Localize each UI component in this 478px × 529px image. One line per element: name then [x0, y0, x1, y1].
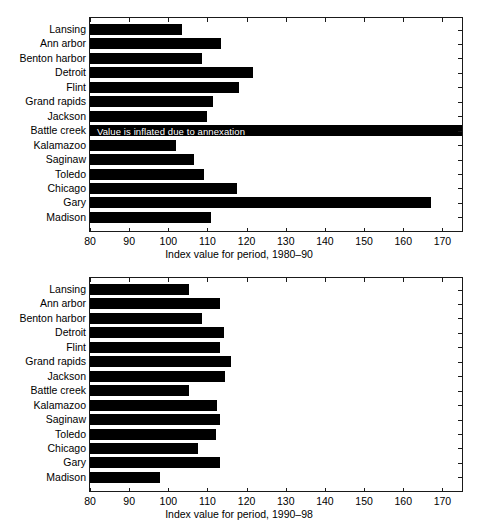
bar-grand-rapids [90, 356, 231, 367]
y-tick-mark-right [458, 333, 462, 334]
x-tick-mark-top [442, 278, 443, 282]
bar-jackson [90, 111, 207, 122]
x-tick-mark-top [207, 18, 208, 22]
bar-row [90, 140, 462, 151]
x-tick-mark [207, 228, 208, 232]
category-label-jackson: Jackson [47, 111, 86, 122]
category-label-flint: Flint [66, 82, 86, 93]
y-tick-mark-right [458, 203, 462, 204]
x-tick-mark-top [90, 278, 91, 282]
category-label-detroit: Detroit [55, 327, 86, 338]
plot-area-top: Value is inflated due to annexation [89, 17, 463, 232]
category-label-saginaw: Saginaw [46, 154, 86, 165]
bar-row [90, 443, 462, 454]
x-tick-mark-top [90, 18, 91, 22]
x-tick-label: 130 [277, 495, 295, 507]
y-tick-mark-right [458, 174, 462, 175]
bar-row [90, 169, 462, 180]
category-label-toledo: Toledo [55, 169, 86, 180]
x-tick-label: 110 [199, 235, 216, 247]
x-tick-mark [364, 228, 365, 232]
figure-bar-chart-pair: Value is inflated due to annexation Lans… [0, 0, 478, 529]
x-tick-label: 120 [238, 235, 256, 247]
y-tick-mark-right [458, 116, 462, 117]
bar-row [90, 183, 462, 194]
bar-ann-arbor [90, 298, 220, 309]
category-label-ann-arbor: Ann arbor [40, 298, 86, 309]
bar-row [90, 154, 462, 165]
bar-kalamazoo [90, 140, 176, 151]
x-tick-mark [247, 228, 248, 232]
y-tick-mark-right [458, 376, 462, 377]
bar-row [90, 371, 462, 382]
x-tick-label: 140 [316, 235, 334, 247]
x-tick-label: 90 [123, 235, 135, 247]
category-label-flint: Flint [66, 342, 86, 353]
bar-row [90, 356, 462, 367]
x-tick-mark-top [207, 278, 208, 282]
x-tick-label: 150 [355, 235, 373, 247]
category-label-benton-harbor: Benton harbor [19, 53, 86, 64]
x-tick-mark [90, 488, 91, 492]
x-tick-mark [403, 488, 404, 492]
panel-top-1980-90: Value is inflated due to annexation Lans… [0, 0, 478, 265]
category-label-lansing: Lansing [49, 24, 86, 35]
bar-lansing [90, 24, 182, 35]
y-tick-mark-right [458, 87, 462, 88]
x-tick-mark [286, 228, 287, 232]
category-label-benton-harbor: Benton harbor [19, 313, 86, 324]
bar-ann-arbor [90, 38, 221, 49]
bar-flint [90, 82, 239, 93]
x-tick-label: 170 [434, 235, 452, 247]
y-tick-mark-right [458, 131, 462, 132]
y-tick-mark-right [458, 318, 462, 319]
category-label-chicago: Chicago [47, 443, 86, 454]
y-tick-mark-right [458, 30, 462, 31]
x-tick-label: 90 [123, 495, 135, 507]
category-label-madison: Madison [46, 472, 86, 483]
category-label-madison: Madison [46, 212, 86, 223]
x-axis-title-top: Index value for period, 1980–90 [0, 248, 478, 260]
bar-row [90, 284, 462, 295]
x-tick-mark-top [129, 18, 130, 22]
y-tick-mark-right [458, 217, 462, 218]
y-tick-mark-right [458, 448, 462, 449]
x-tick-mark-top [403, 18, 404, 22]
bar-saginaw [90, 414, 220, 425]
bar-gary [90, 457, 220, 468]
category-label-detroit: Detroit [55, 67, 86, 78]
x-tick-label: 100 [160, 235, 178, 247]
x-tick-mark-top [247, 18, 248, 22]
bar-jackson [90, 371, 225, 382]
category-label-ann-arbor: Ann arbor [40, 38, 86, 49]
x-tick-mark-top [442, 18, 443, 22]
x-tick-mark-top [129, 278, 130, 282]
bar-row [90, 327, 462, 338]
x-tick-mark [90, 228, 91, 232]
x-tick-mark [364, 488, 365, 492]
y-tick-mark-right [458, 102, 462, 103]
x-tick-mark [129, 228, 130, 232]
bar-chicago [90, 183, 237, 194]
y-tick-mark-right [458, 347, 462, 348]
bar-row [90, 400, 462, 411]
bar-row [90, 111, 462, 122]
bar-row [90, 429, 462, 440]
x-tick-mark [168, 488, 169, 492]
x-tick-mark [403, 228, 404, 232]
bar-saginaw [90, 154, 194, 165]
bar-row [90, 53, 462, 64]
category-label-lansing: Lansing [49, 284, 86, 295]
y-tick-mark-right [458, 188, 462, 189]
bar-chicago [90, 443, 198, 454]
bar-row [90, 385, 462, 396]
x-tick-mark-top [168, 278, 169, 282]
x-tick-mark-top [168, 18, 169, 22]
bar-row [90, 342, 462, 353]
x-tick-mark [247, 488, 248, 492]
category-label-battle-creek: Battle creek [31, 125, 86, 136]
y-tick-mark-right [458, 160, 462, 161]
bar-madison [90, 472, 160, 483]
x-tick-mark [442, 488, 443, 492]
x-tick-label: 160 [394, 235, 412, 247]
